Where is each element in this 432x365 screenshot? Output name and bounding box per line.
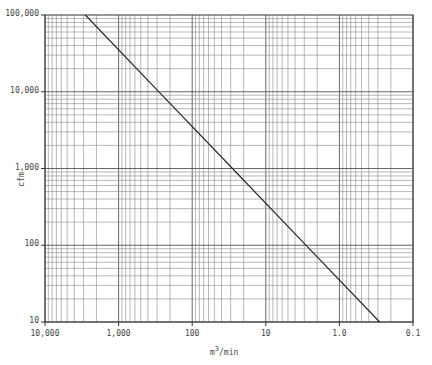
- y-tick-label: 1,000: [15, 163, 39, 172]
- conversion-chart: [0, 0, 432, 365]
- x-axis-title: m3/min: [210, 345, 238, 357]
- x-tick-label: 100: [185, 329, 199, 338]
- y-tick-label: 10,000: [10, 86, 39, 95]
- y-axis-title: cfm: [17, 172, 26, 186]
- x-tick-label: 1,000: [107, 329, 131, 338]
- x-axis-title-rest: /min: [219, 348, 238, 357]
- y-tick-label: 10: [29, 316, 39, 325]
- x-tick-label: 0.1: [406, 329, 420, 338]
- x-tick-label: 1.0: [332, 329, 346, 338]
- grid-lines: [45, 15, 413, 322]
- x-tick-label: 10,000: [31, 329, 60, 338]
- y-tick-label: 100: [25, 239, 39, 248]
- y-tick-label: 100,000: [5, 9, 39, 18]
- axis-ticks: [41, 15, 413, 326]
- x-tick-label: 10: [261, 329, 271, 338]
